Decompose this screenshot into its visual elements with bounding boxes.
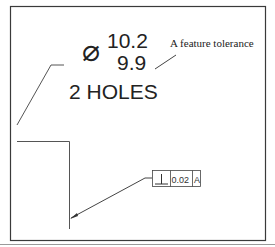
leader-arrowhead [70, 213, 78, 219]
upper-limit-text: 10.2 [107, 29, 148, 52]
diameter-symbol: ⌀ [82, 34, 100, 67]
hole-count-label: 2 HOLES [69, 80, 158, 103]
lower-limit-text: 9.9 [117, 51, 146, 74]
dimension-leader-line [17, 65, 64, 125]
feature-control-frame: 0.02 A [153, 171, 201, 187]
tolerance-value: 0.02 [172, 175, 190, 185]
feature-tolerance-annotation: A feature tolerance [170, 37, 254, 49]
part-edge [17, 142, 70, 230]
engineering-drawing: ⌀ 10.2 9.9 2 HOLES A feature tolerance 0… [0, 0, 275, 247]
annotation-leader-line [155, 55, 176, 69]
fcf-leader-line [71, 178, 152, 218]
datum-reference: A [194, 175, 200, 185]
